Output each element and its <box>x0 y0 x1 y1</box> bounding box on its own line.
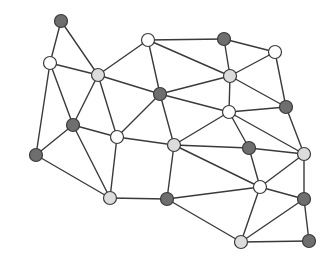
edge-9-14 <box>286 107 304 154</box>
node-16-light <box>104 192 117 205</box>
edge-1-10 <box>50 63 73 125</box>
edge-12-17 <box>167 145 174 199</box>
node-2-light <box>92 69 105 82</box>
edge-7-9 <box>230 76 286 107</box>
graph-diagram <box>0 0 335 277</box>
edge-3-7 <box>148 40 230 76</box>
node-6-dark <box>154 88 167 101</box>
edge-4-5 <box>224 39 275 52</box>
node-1-white <box>44 57 57 70</box>
node-12-light <box>168 139 181 152</box>
edge-1-15 <box>36 63 50 155</box>
edge-19-20 <box>241 199 304 242</box>
edge-8-12 <box>174 112 229 145</box>
nodes-layer <box>30 15 316 249</box>
node-7-light <box>224 70 237 83</box>
edge-20-21 <box>241 241 309 242</box>
edge-3-4 <box>148 39 224 40</box>
edge-5-7 <box>230 52 275 76</box>
node-13-dark <box>243 142 256 155</box>
edge-3-6 <box>148 40 160 94</box>
node-14-light <box>298 148 311 161</box>
edge-11-12 <box>117 137 174 145</box>
edge-2-11 <box>98 75 117 137</box>
node-0-dark <box>55 15 68 28</box>
edge-14-18 <box>260 154 304 187</box>
node-17-dark <box>161 193 174 206</box>
edge-2-3 <box>98 40 148 75</box>
node-9-dark <box>280 101 293 114</box>
edge-18-20 <box>241 187 260 242</box>
node-4-dark <box>218 33 231 46</box>
node-19-dark <box>298 193 311 206</box>
node-18-white <box>254 181 267 194</box>
edge-6-7 <box>160 76 230 94</box>
node-11-white <box>111 131 124 144</box>
edge-6-12 <box>160 94 174 145</box>
edge-6-8 <box>160 94 229 112</box>
edge-5-9 <box>275 52 286 107</box>
edge-8-9 <box>229 107 286 112</box>
edge-12-13 <box>174 145 249 148</box>
edge-17-20 <box>167 199 241 242</box>
edge-17-18 <box>167 187 260 199</box>
node-15-dark <box>30 149 43 162</box>
node-21-dark <box>303 235 316 248</box>
node-5-white <box>269 46 282 59</box>
edge-16-17 <box>110 198 167 199</box>
node-20-light <box>235 236 248 249</box>
edge-2-6 <box>98 75 160 94</box>
edge-2-10 <box>73 75 98 125</box>
edge-11-16 <box>110 137 117 198</box>
node-3-white <box>142 34 155 47</box>
edge-6-11 <box>117 94 160 137</box>
node-10-dark <box>67 119 80 132</box>
edges-layer <box>36 21 309 242</box>
node-8-white <box>223 106 236 119</box>
edge-10-15 <box>36 125 73 155</box>
